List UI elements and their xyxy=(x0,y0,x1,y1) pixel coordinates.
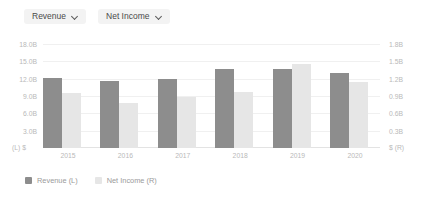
axis-tick-label: 6.0B xyxy=(23,110,37,117)
legend-swatch xyxy=(95,177,102,184)
bar-revenue[interactable] xyxy=(100,81,119,148)
metric-dropdown-revenue-label: Revenue xyxy=(32,12,66,21)
bar-net-income[interactable] xyxy=(349,82,368,148)
x-axis-tick-label: 2015 xyxy=(43,152,93,159)
legend-item[interactable]: Revenue (L) xyxy=(25,176,78,185)
bar-group[interactable] xyxy=(330,44,380,148)
y-axis-left-unit: (L) $ xyxy=(12,144,26,151)
bar-group[interactable] xyxy=(215,44,265,148)
bar-net-income[interactable] xyxy=(177,97,196,148)
axis-tick-label: 3.0B xyxy=(23,127,37,134)
chart-plot-area xyxy=(43,44,380,148)
legend-swatch xyxy=(25,177,32,184)
axis-tick-label: 1.8B xyxy=(389,41,403,48)
bar-group[interactable] xyxy=(273,44,323,148)
chevron-down-icon xyxy=(72,13,79,20)
stock-financials-chart-widget: Revenue Net Income 18.0B15.0B12.0B9.0B6.… xyxy=(0,0,433,197)
bar-net-income[interactable] xyxy=(292,64,311,148)
axis-tick-label: 0.6B xyxy=(389,110,403,117)
legend-label: Net Income (R) xyxy=(107,176,157,185)
x-axis-tick-label: 2016 xyxy=(100,152,150,159)
metric-dropdown-net-income-label: Net Income xyxy=(106,12,149,21)
x-axis-tick-label: 2019 xyxy=(273,152,323,159)
x-axis-tick-label: 2017 xyxy=(158,152,208,159)
axis-tick-label: 0.3B xyxy=(389,127,403,134)
bar-group[interactable] xyxy=(43,44,93,148)
x-axis-labels: 201520162017201820192020 xyxy=(43,152,380,159)
y-axis-right-unit: $ (R) xyxy=(389,144,404,151)
metric-dropdown-net-income[interactable]: Net Income xyxy=(98,9,169,24)
bar-revenue[interactable] xyxy=(330,73,349,148)
axis-tick-label: 15.0B xyxy=(19,58,37,65)
bar-revenue[interactable] xyxy=(273,69,292,148)
y-axis-right: 1.8B1.5B1.2B0.9B0.6B0.3B xyxy=(383,44,429,148)
axis-tick-label: 1.2B xyxy=(389,75,403,82)
bar-group[interactable] xyxy=(100,44,150,148)
legend-item[interactable]: Net Income (R) xyxy=(95,176,157,185)
bar-revenue[interactable] xyxy=(43,78,62,148)
bar-group[interactable] xyxy=(158,44,208,148)
chart-legend: Revenue (L)Net Income (R) xyxy=(25,176,157,185)
axis-tick-label: 9.0B xyxy=(23,93,37,100)
chart-toolbar: Revenue Net Income xyxy=(24,9,170,24)
x-axis-tick-label: 2020 xyxy=(330,152,380,159)
legend-label: Revenue (L) xyxy=(37,176,78,185)
bar-groups xyxy=(43,44,380,148)
bar-revenue[interactable] xyxy=(215,69,234,148)
bar-revenue[interactable] xyxy=(158,79,177,148)
chevron-down-icon xyxy=(156,13,163,20)
axis-tick-label: 18.0B xyxy=(19,41,37,48)
metric-dropdown-revenue[interactable]: Revenue xyxy=(24,9,86,24)
y-axis-left: 18.0B15.0B12.0B9.0B6.0B3.0B xyxy=(0,44,40,148)
x-axis-tick-label: 2018 xyxy=(215,152,265,159)
bar-net-income[interactable] xyxy=(119,103,138,148)
axis-tick-label: 1.5B xyxy=(389,58,403,65)
axis-tick-label: 0.9B xyxy=(389,93,403,100)
bar-net-income[interactable] xyxy=(62,93,81,148)
bar-net-income[interactable] xyxy=(234,92,253,148)
axis-tick-label: 12.0B xyxy=(19,75,37,82)
